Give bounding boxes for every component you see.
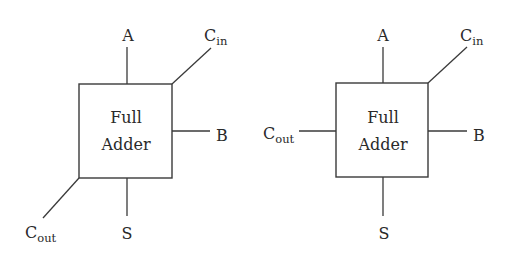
port-label-s: S xyxy=(122,224,133,243)
block-label-line2: Adder xyxy=(357,135,408,154)
diagram-canvas: Full Adder A Cin B Cout S Full Adder A C… xyxy=(0,0,511,257)
port-label-b: B xyxy=(216,126,228,145)
wire-cin xyxy=(172,48,211,84)
full-adder-left: Full Adder A Cin B Cout S xyxy=(25,26,228,245)
port-label-cout: Cout xyxy=(263,124,295,146)
block-label-line2: Adder xyxy=(100,135,151,154)
wire-cout xyxy=(43,178,79,218)
cin-sub: in xyxy=(472,34,484,48)
block-label-line1: Full xyxy=(367,108,399,127)
port-label-cin: Cin xyxy=(204,26,228,48)
block-label-line1: Full xyxy=(110,108,142,127)
cout-main: C xyxy=(25,223,37,242)
full-adder-block xyxy=(336,83,428,177)
full-adder-right: Full Adder A Cin B Cout S xyxy=(263,26,485,243)
port-label-b: B xyxy=(473,126,485,145)
cin-sub: in xyxy=(216,34,228,48)
cout-sub: out xyxy=(37,231,56,245)
cin-main: C xyxy=(204,26,216,45)
cout-sub: out xyxy=(275,132,294,146)
cin-main: C xyxy=(460,26,472,45)
cout-main: C xyxy=(263,124,275,143)
full-adder-block xyxy=(79,84,172,178)
port-label-s: S xyxy=(379,224,390,243)
port-label-cout: Cout xyxy=(25,223,57,245)
port-label-a: A xyxy=(376,26,389,45)
port-label-a: A xyxy=(121,26,134,45)
wire-cin xyxy=(428,47,467,83)
port-label-cin: Cin xyxy=(460,26,484,48)
